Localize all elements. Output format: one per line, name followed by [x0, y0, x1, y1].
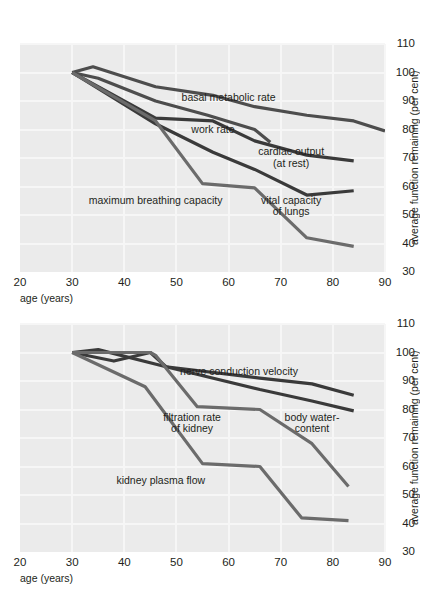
x-axis-ticks-top: 2030405060708090: [0, 276, 437, 290]
series-annotation: maximum breathing capacity: [89, 195, 223, 207]
x-axis-tick-label: 60: [222, 276, 235, 288]
x-axis-tick-label: 40: [118, 556, 131, 568]
x-axis-ticks-bottom: 2030405060708090: [0, 556, 437, 570]
chart-top: basal metabolic ratework ratecardiac out…: [0, 44, 437, 304]
plot-area-top: basal metabolic ratework ratecardiac out…: [20, 44, 385, 272]
figure-page: basal metabolic ratework ratecardiac out…: [0, 0, 437, 599]
series-annotation: kidney plasma flow: [116, 475, 205, 487]
x-axis-tick-label: 70: [274, 556, 287, 568]
x-axis-tick-label: 90: [379, 556, 392, 568]
series-annotation: basal metabolic rate: [182, 92, 276, 104]
plot-area-bottom: nerve conduction velocityfiltration rate…: [20, 324, 385, 552]
cropped-caption: [14, 0, 154, 6]
x-axis-tick-label: 20: [14, 276, 27, 288]
x-axis-tick-label: 80: [326, 556, 339, 568]
series-line: [72, 353, 354, 411]
y-axis-title-top: average function remaining (per cent): [404, 44, 420, 272]
series-annotation: of kidney: [171, 423, 213, 435]
x-axis-tick-label: 60: [222, 556, 235, 568]
y-axis-title-bottom: average function remaining (per cent): [404, 324, 420, 552]
x-axis-tick-label: 30: [66, 276, 79, 288]
x-axis-title-top: age (years): [20, 292, 73, 304]
series-lines-bottom: [20, 324, 385, 552]
x-axis-tick-label: 50: [170, 276, 183, 288]
x-axis-tick-label: 30: [66, 556, 79, 568]
series-lines-top: [20, 44, 385, 272]
x-axis-tick-label: 20: [14, 556, 27, 568]
series-annotation: work rate: [191, 124, 234, 136]
series-annotation: of lungs: [273, 206, 310, 218]
chart-bottom: nerve conduction velocityfiltration rate…: [0, 324, 437, 594]
x-axis-tick-label: 70: [274, 276, 287, 288]
x-axis-tick-label: 40: [118, 276, 131, 288]
x-axis-title-bottom: age (years): [20, 572, 73, 584]
x-axis-tick-label: 90: [379, 276, 392, 288]
series-annotation: content: [295, 423, 329, 435]
series-annotation: nerve conduction velocity: [180, 366, 298, 378]
x-axis-tick-label: 80: [326, 276, 339, 288]
x-axis-tick-label: 50: [170, 556, 183, 568]
series-annotation: (at rest): [273, 158, 309, 170]
